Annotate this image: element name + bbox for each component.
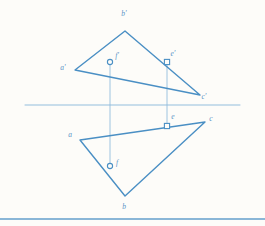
frontal-projection [75, 31, 200, 95]
label-e-prime: e' [171, 49, 176, 58]
label-a: a [68, 130, 72, 139]
horizontal-triangle-group [80, 122, 205, 196]
projection-lines-group [110, 62, 167, 166]
point-markers-group [107, 59, 169, 168]
label-b: b [122, 202, 126, 211]
horizontal-projection [80, 122, 205, 196]
frontal-triangle-group [75, 31, 200, 95]
point-marker-f [107, 163, 112, 168]
figure-canvas: a'b'c'abce'f'ef [0, 0, 265, 226]
label-f-prime: f' [115, 51, 119, 60]
label-f: f [116, 158, 119, 167]
label-e: e [171, 112, 175, 121]
vertex-labels-group: a'b'c'abce'f'ef [60, 9, 213, 211]
geometry-drawing: a'b'c'abce'f'ef [0, 0, 265, 226]
point-marker-e [164, 123, 169, 128]
point-marker-f-prime [107, 59, 112, 64]
label-b-prime: b' [121, 9, 127, 18]
label-c: c [209, 114, 213, 123]
label-c-prime: c' [202, 92, 207, 101]
label-a-prime: a' [60, 63, 66, 72]
point-marker-e-prime [164, 59, 169, 64]
